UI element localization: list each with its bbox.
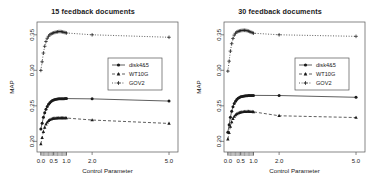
svg-text:0.20: 0.20 — [216, 135, 222, 147]
svg-text:disk4&5: disk4&5 — [129, 62, 149, 68]
chart-panel-30-docs: 30 feedback documents 0.200.250.300.35MA… — [187, 0, 373, 184]
svg-text:disk4&5: disk4&5 — [316, 62, 336, 68]
svg-text:0.35: 0.35 — [29, 28, 35, 40]
svg-text:GOV2: GOV2 — [129, 80, 145, 86]
svg-text:1.0: 1.0 — [62, 158, 71, 164]
svg-text:5.0: 5.0 — [352, 158, 361, 164]
svg-text:1.0: 1.0 — [249, 158, 258, 164]
svg-text:0.25: 0.25 — [216, 99, 222, 111]
svg-text:WT10G: WT10G — [129, 71, 148, 77]
svg-text:0.30: 0.30 — [216, 64, 222, 76]
plot-area: 0.200.250.300.35MAP0.00.51.02.05.0Contro… — [187, 0, 373, 184]
svg-text:0.5: 0.5 — [49, 158, 58, 164]
svg-text:0.0: 0.0 — [37, 158, 46, 164]
figure-two-panel-chart: 15 feedback documents 0.200.250.300.35MA… — [0, 0, 373, 184]
svg-text:MAP: MAP — [8, 80, 15, 93]
svg-text:5.0: 5.0 — [165, 158, 174, 164]
svg-text:0.20: 0.20 — [29, 135, 35, 147]
svg-text:2.0: 2.0 — [275, 158, 284, 164]
svg-text:0.5: 0.5 — [236, 158, 245, 164]
svg-text:0.30: 0.30 — [29, 64, 35, 76]
svg-text:MAP: MAP — [195, 80, 202, 93]
svg-text:0.25: 0.25 — [29, 99, 35, 111]
svg-text:GOV2: GOV2 — [316, 80, 332, 86]
svg-text:0.35: 0.35 — [216, 28, 222, 40]
svg-text:2.0: 2.0 — [88, 158, 97, 164]
svg-text:Control Parameter: Control Parameter — [269, 167, 320, 174]
chart-panel-15-docs: 15 feedback documents 0.200.250.300.35MA… — [0, 0, 186, 184]
svg-text:Control Parameter: Control Parameter — [82, 167, 133, 174]
svg-text:WT10G: WT10G — [316, 71, 335, 77]
plot-area: 0.200.250.300.35MAP0.00.51.02.05.0Contro… — [0, 0, 186, 184]
svg-text:0.0: 0.0 — [224, 158, 233, 164]
